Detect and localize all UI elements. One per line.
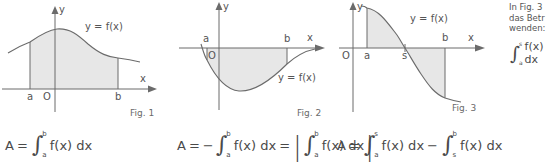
integral-sign-icon: ∫ (216, 139, 227, 151)
formula1-lhs: A (5, 138, 14, 153)
formula3-second-lower-limit: s (452, 152, 456, 159)
integral-sign-icon: ∫ (304, 139, 315, 151)
fig2-caption: Fig. 2 (297, 108, 321, 118)
formula2-equals-2: = (277, 138, 292, 153)
abs-bar-left-icon: | (293, 140, 302, 153)
figure-1: y x O a b y = f(x) Fig. 1 (0, 0, 175, 125)
x-axis-arrow (148, 86, 157, 93)
formula2-equals: = (187, 138, 202, 153)
integral-sign-icon: ∫ (510, 48, 520, 58)
formula1-upper-limit: b (42, 131, 46, 138)
y-axis-arrow (216, 2, 223, 10)
integral-sign-icon: ∫ (442, 139, 453, 151)
side-note: In Fig. 3 das Betr wenden: (509, 2, 552, 34)
figure-1-plot (0, 0, 175, 125)
figure-3: y x O a s b y = f(x) Fig. 3 (335, 0, 510, 125)
y-axis-arrow (52, 6, 59, 14)
fig2-origin-label: O (208, 50, 216, 61)
fig1-origin-label: O (43, 91, 51, 102)
fig2-curve-label: y = f(x) (278, 72, 316, 83)
integral-sign-icon: ∫ (32, 139, 43, 151)
formula3-first-lower-limit: a (374, 152, 378, 159)
fig3-y-axis-label: y (357, 1, 363, 12)
formula3-minus: − (425, 138, 440, 153)
side-note-lower-limit: a (519, 60, 523, 66)
fig3-lower-bound-label: a (364, 50, 370, 61)
fig3-caption: Fig. 3 (452, 103, 476, 113)
formula3-first-integral: ∫ s a (364, 134, 380, 156)
shaded-area (30, 29, 118, 89)
fig1-caption: Fig. 1 (130, 108, 154, 118)
formula2-lhs: A (177, 138, 186, 153)
side-note-integral: ∫ s a (510, 44, 524, 63)
figure-2: y x O a b y = f(x) Fig. 2 (175, 0, 340, 125)
formula3-second-integrand: f(x) dx (460, 138, 503, 153)
formula2-integral: ∫ b a (216, 134, 232, 156)
shaded-area-negative (405, 48, 445, 98)
formula3-second-integral: ∫ b s (442, 134, 458, 156)
formula1-equals: = (15, 138, 30, 153)
formula1-integral: ∫ b a (32, 134, 48, 156)
fig2-y-axis-label: y (223, 1, 229, 12)
formula1-integrand: f(x) dx (50, 138, 93, 153)
fig3-x-axis-label: x (468, 32, 474, 43)
formula3-first-integrand: f(x) dx (382, 138, 425, 153)
formula2-minus: − (203, 138, 214, 153)
formula3-equals: = (347, 138, 362, 153)
side-note-line-2: das Betr (509, 13, 552, 24)
fig1-y-axis-label: y (59, 4, 65, 15)
figure-2-plot (175, 0, 340, 125)
formula2-abs-lower-limit: a (314, 152, 318, 159)
fig1-upper-bound-label: b (115, 91, 121, 102)
fig3-origin-label: O (342, 50, 350, 61)
side-note-line-3: wenden: (509, 23, 552, 34)
side-note-line-1: In Fig. 3 (509, 2, 552, 13)
side-note-formula: ∫ s a f(x) dx (509, 40, 552, 66)
shaded-area-positive (367, 8, 405, 48)
fig1-x-axis-label: x (140, 73, 146, 84)
fig1-lower-bound-label: a (27, 91, 33, 102)
x-axis-arrow (475, 45, 485, 52)
side-note-integrand: f(x) dx (525, 40, 552, 66)
side-note-upper-limit: s (519, 41, 523, 47)
formula1-lower-limit: a (42, 152, 46, 159)
x-axis-arrow (315, 45, 325, 52)
fig1-curve-label: y = f(x) (85, 21, 123, 32)
formula-figure-3: A = ∫ s a f(x) dx − ∫ b s f(x) dx (337, 134, 502, 156)
y-axis-arrow (350, 2, 357, 10)
fig3-upper-bound-label: b (442, 32, 448, 43)
formula3-second-upper-limit: b (452, 131, 456, 138)
formula2-lower-limit: a (226, 152, 230, 159)
fig3-zero-point-label: s (402, 50, 407, 61)
formula3-first-upper-limit: s (374, 131, 378, 138)
formula3-lhs: A (337, 138, 346, 153)
formula-figure-1: A = ∫ b a f(x) dx (5, 134, 92, 156)
integral-sign-icon: ∫ (364, 139, 375, 151)
formula2-abs-upper-limit: b (314, 131, 318, 138)
formula2-abs-integral: ∫ b a (304, 134, 320, 156)
formula2-upper-limit: b (226, 131, 230, 138)
fig2-x-axis-label: x (307, 32, 313, 43)
fig3-curve-label: y = f(x) (410, 13, 448, 24)
fig2-upper-bound-label: b (284, 33, 290, 44)
fig2-lower-bound-label: a (203, 33, 209, 44)
formula2-integrand: f(x) dx (234, 138, 277, 153)
